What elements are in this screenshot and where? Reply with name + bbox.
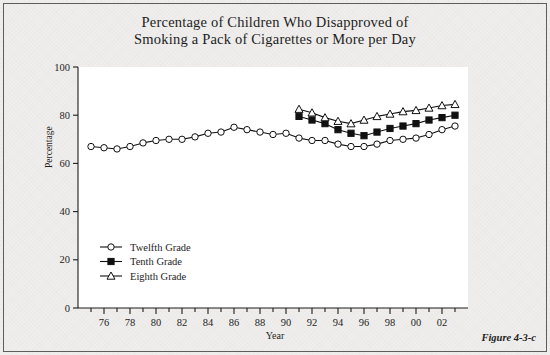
data-marker	[387, 125, 393, 131]
x-tick-label: 96	[359, 317, 370, 328]
data-marker	[387, 137, 393, 143]
y-tick-label: 100	[54, 62, 70, 73]
data-marker	[295, 105, 303, 112]
y-axis-label: Percentage	[44, 154, 54, 168]
data-marker	[309, 137, 315, 143]
x-tick-label: 80	[151, 317, 162, 328]
data-marker	[283, 130, 289, 136]
x-tick-label: 76	[99, 317, 110, 328]
y-axis-label-wrap: Percentage	[44, 168, 58, 178]
figure-page: Percentage of Children Who Disapproved o…	[0, 0, 550, 355]
x-tick-label: 94	[333, 317, 344, 328]
data-marker	[426, 131, 432, 137]
data-marker	[321, 114, 329, 121]
x-tick-label: 92	[307, 317, 318, 328]
data-marker	[192, 134, 198, 140]
data-marker	[218, 129, 224, 135]
y-tick-label: 0	[65, 303, 70, 314]
legend-item-twelfth-grade: Twelfth Grade	[100, 242, 191, 253]
legend-item-eighth-grade: Eighth Grade	[100, 271, 187, 282]
data-marker	[153, 137, 159, 143]
data-marker	[296, 135, 302, 141]
data-marker	[426, 117, 432, 123]
data-marker	[439, 126, 445, 132]
data-marker	[413, 121, 419, 127]
data-marker	[322, 121, 328, 127]
data-marker	[108, 258, 114, 264]
data-marker	[322, 137, 328, 143]
x-tick-label: 82	[177, 317, 188, 328]
y-tick-label: 40	[60, 206, 71, 217]
x-tick-label: 00	[411, 317, 422, 328]
data-marker	[166, 136, 172, 142]
data-marker	[335, 127, 341, 133]
data-marker	[244, 126, 250, 132]
data-marker	[361, 133, 367, 139]
data-marker	[400, 123, 406, 129]
chart-title-line-2: Smoking a Pack of Cigarettes or More per…	[0, 31, 550, 48]
data-marker	[179, 136, 185, 142]
data-marker	[296, 113, 302, 119]
data-marker	[348, 130, 354, 136]
x-tick-label: 84	[203, 317, 214, 328]
data-marker	[257, 129, 263, 135]
legend-item-tenth-grade: Tenth Grade	[100, 256, 182, 267]
series-eighth-grade	[295, 100, 459, 126]
figure-caption: Figure 4-3-c	[481, 332, 536, 343]
chart-legend: Twelfth GradeTenth GradeEighth Grade	[100, 242, 191, 282]
data-marker	[452, 112, 458, 118]
legend-label: Tenth Grade	[130, 256, 182, 267]
x-tick-label: 90	[281, 317, 292, 328]
chart-svg: Twelfth GradeTenth GradeEighth Grade	[78, 67, 468, 308]
data-marker	[114, 146, 120, 152]
legend-label: Eighth Grade	[130, 271, 187, 282]
data-marker	[101, 145, 107, 151]
data-marker	[127, 143, 133, 149]
data-marker	[88, 143, 94, 149]
y-tick-label: 60	[60, 158, 71, 169]
data-marker	[400, 136, 406, 142]
data-marker	[361, 143, 367, 149]
chart-title: Percentage of Children Who Disapproved o…	[0, 14, 550, 48]
x-tick-label: 98	[385, 317, 396, 328]
data-marker	[108, 244, 114, 250]
data-marker	[335, 141, 341, 147]
data-marker	[451, 100, 459, 107]
data-marker	[231, 124, 237, 130]
data-marker	[452, 123, 458, 129]
x-tick-label: 78	[125, 317, 136, 328]
data-marker	[413, 135, 419, 141]
plot-area: Twelfth GradeTenth GradeEighth Grade	[78, 67, 468, 308]
data-marker	[270, 131, 276, 137]
data-marker	[309, 117, 315, 123]
data-marker	[374, 141, 380, 147]
x-axis-label: Year	[0, 330, 550, 341]
data-marker	[374, 129, 380, 135]
data-marker	[348, 143, 354, 149]
data-marker	[205, 130, 211, 136]
x-tick-label: 02	[437, 317, 448, 328]
x-tick-label: 88	[255, 317, 266, 328]
y-tick-label: 80	[60, 110, 71, 121]
data-marker	[439, 115, 445, 121]
x-tick-label: 86	[229, 317, 240, 328]
legend-label: Twelfth Grade	[130, 242, 191, 253]
data-marker	[140, 140, 146, 146]
y-tick-label: 20	[60, 254, 71, 265]
chart-title-line-1: Percentage of Children Who Disapproved o…	[142, 14, 409, 30]
